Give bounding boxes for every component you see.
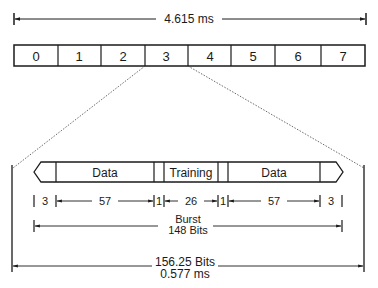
burst-length-dimension: Burst 148 Bits <box>34 213 342 236</box>
slot-1-label: 1 <box>75 49 82 64</box>
slot-4-label: 4 <box>206 49 213 64</box>
frame-duration-label: 4.615 ms <box>164 12 213 26</box>
bit-count-row: 3 57 1 26 1 57 3 <box>34 195 342 207</box>
tdma-frame-diagram: 4.615 ms 0 1 2 3 4 5 6 7 Data Tra <box>0 0 378 288</box>
bits-flag-left: 1 <box>156 195 162 207</box>
expansion-line-left <box>13 66 145 168</box>
slot-7-label: 7 <box>339 49 346 64</box>
field-training: Training <box>170 166 213 180</box>
frame-outline <box>14 45 365 66</box>
expansion-lines <box>13 66 364 168</box>
bits-data-right: 57 <box>268 195 280 207</box>
expansion-line-right <box>188 66 364 168</box>
bits-tail-left: 3 <box>42 195 48 207</box>
bits-flag-right: 1 <box>220 195 226 207</box>
slot-5-label: 5 <box>249 49 256 64</box>
bits-training: 26 <box>185 195 197 207</box>
bits-tail-right: 3 <box>328 195 334 207</box>
slot-duration-label: 0.577 ms <box>160 267 209 281</box>
slot-3-label: 3 <box>162 49 169 64</box>
burst-bits-label: 148 Bits <box>168 224 208 236</box>
burst-structure: Data Training Data <box>34 162 343 182</box>
slot-0-label: 0 <box>32 49 39 64</box>
frame-duration-dimension: 4.615 ms <box>14 12 366 26</box>
slot-period-dimension: 156.25 Bits 0.577 ms <box>13 255 363 281</box>
frame-slots: 0 1 2 3 4 5 6 7 <box>14 45 365 66</box>
bits-data-left: 57 <box>99 195 111 207</box>
field-data-right: Data <box>261 166 287 180</box>
field-data-left: Data <box>92 166 118 180</box>
slot-6-label: 6 <box>294 49 301 64</box>
slot-2-label: 2 <box>119 49 126 64</box>
